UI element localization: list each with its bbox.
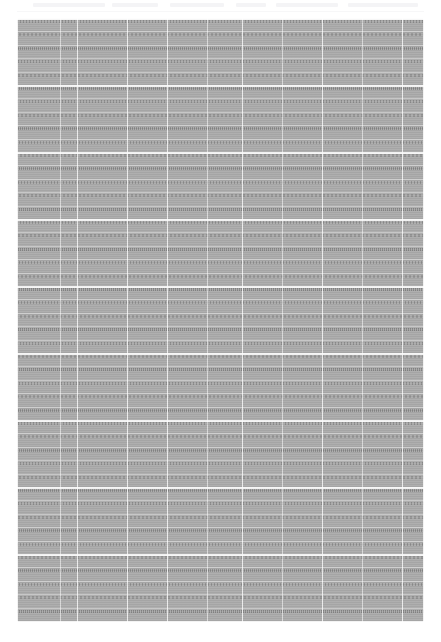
header-ghost-segment xyxy=(348,3,418,7)
table-column-rule xyxy=(127,18,128,622)
data-table xyxy=(17,18,424,622)
header-ghost-segment xyxy=(236,3,266,7)
header-ghost-segment xyxy=(276,3,338,7)
table-column-rule xyxy=(242,18,243,622)
table-edge-bottom xyxy=(17,621,424,622)
table-column-rule xyxy=(167,18,168,622)
document-page xyxy=(0,0,441,642)
table-edge-left xyxy=(17,18,18,622)
table-column-rule xyxy=(282,18,283,622)
table-column-rule xyxy=(362,18,363,622)
table-column-rule xyxy=(207,18,208,622)
header-ghost-segment xyxy=(112,3,158,7)
table-column-rule xyxy=(402,18,403,622)
header-divider xyxy=(17,11,424,12)
table-column-rule xyxy=(322,18,323,622)
table-edge-right xyxy=(423,18,424,622)
header-ghost-segment xyxy=(33,3,105,7)
table-edge-top xyxy=(17,18,424,19)
document-header-band xyxy=(0,0,441,13)
header-ghost-segment xyxy=(170,3,224,7)
table-column-rule xyxy=(60,18,61,622)
table-column-rule xyxy=(77,18,78,622)
